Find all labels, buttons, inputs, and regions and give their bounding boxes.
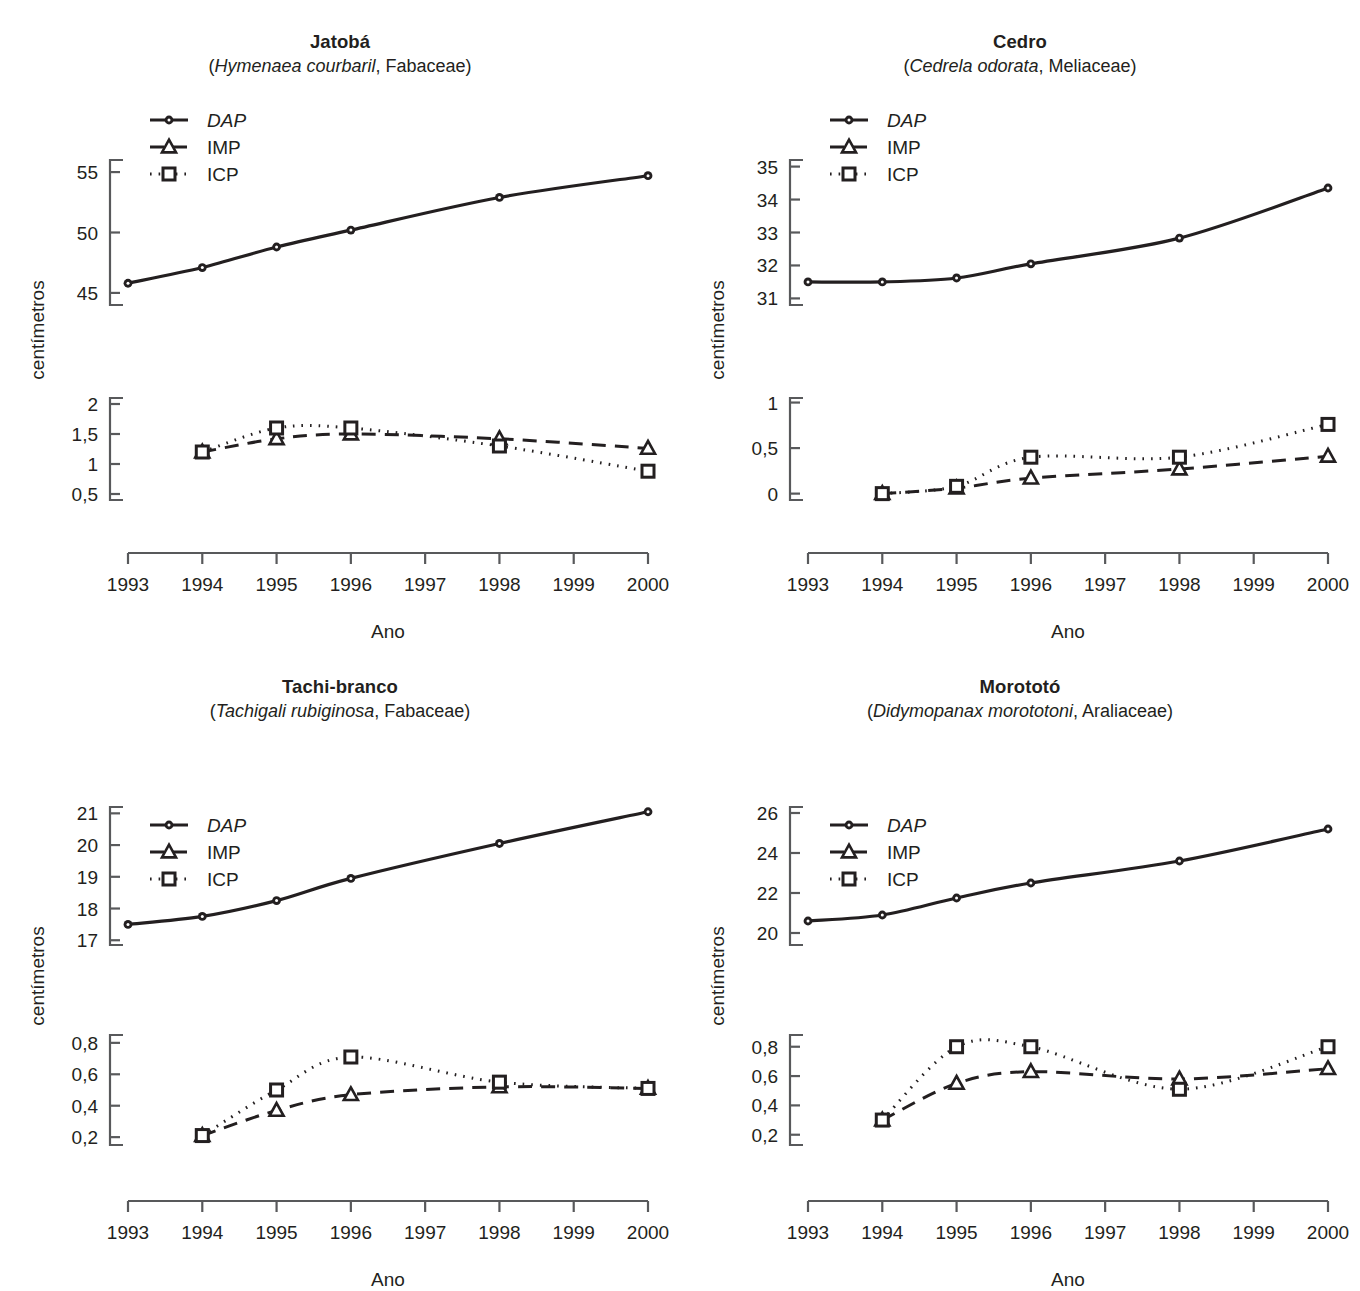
x-tick-label: 1997: [1084, 574, 1126, 595]
y-tick-label: 1: [87, 454, 98, 475]
y-tick-label: 50: [77, 223, 98, 244]
data-point-icp: [271, 1084, 283, 1096]
y-tick-label: 0,5: [72, 484, 98, 505]
y-tick-label: 31: [757, 288, 778, 309]
y-tick-label: 0,2: [72, 1127, 98, 1148]
data-point-dap-center: [275, 246, 278, 249]
series-line-dap: [808, 188, 1328, 282]
series-line-dap: [808, 829, 1328, 921]
x-tick-label: 1999: [1233, 574, 1275, 595]
series-line-dap: [128, 812, 648, 925]
data-point-dap-center: [848, 824, 851, 827]
x-tick-label: 1997: [1084, 1222, 1126, 1243]
x-tick-label: 2000: [627, 1222, 669, 1243]
plot-area: 313233343500,51: [752, 157, 1335, 505]
data-point-imp: [162, 845, 176, 858]
y-tick-label: 0,2: [752, 1125, 778, 1146]
legend-label-dap: DAP: [887, 815, 926, 836]
y-tick-label: 35: [757, 157, 778, 178]
panel-cedro: Cedro (Cedrela odorata, Meliaceae) 31323…: [680, 0, 1360, 645]
y-tick-label: 21: [77, 803, 98, 824]
legend-label-dap: DAP: [207, 815, 246, 836]
data-point-imp: [950, 1076, 964, 1089]
data-point-dap-center: [1327, 828, 1330, 831]
chart-jatoba: 4550550,511,52DAPIMPICP19931994199519961…: [0, 0, 680, 645]
y-tick-label: 0,4: [752, 1095, 779, 1116]
x-axis-label: Ano: [1051, 621, 1085, 642]
data-point-imp: [1321, 1061, 1335, 1074]
y-axis-label: centímetros: [27, 926, 48, 1025]
data-point-dap-center: [127, 282, 130, 285]
y-tick-label: 17: [77, 930, 98, 951]
y-axis-label: centímetros: [707, 926, 728, 1025]
data-point-imp: [842, 845, 856, 858]
data-point-icp: [493, 1076, 505, 1088]
x-tick-label: 1995: [935, 574, 977, 595]
x-tick-label: 1998: [1158, 1222, 1200, 1243]
data-point-icp: [843, 168, 855, 180]
data-point-icp: [1322, 418, 1334, 430]
y-tick-label: 55: [77, 162, 98, 183]
y-axis-spine: [790, 1035, 803, 1145]
data-point-icp: [196, 1130, 208, 1142]
plot-area: 17181920210,20,40,60,8: [72, 803, 655, 1148]
data-point-imp: [1024, 471, 1038, 484]
x-tick-label: 1995: [935, 1222, 977, 1243]
x-axis-label: Ano: [371, 621, 405, 642]
data-point-dap-center: [647, 810, 650, 813]
x-tick-label: 1998: [478, 574, 520, 595]
data-point-icp: [1025, 451, 1037, 463]
data-point-imp: [1024, 1064, 1038, 1077]
data-point-icp: [1322, 1041, 1334, 1053]
x-tick-label: 1998: [1158, 574, 1200, 595]
legend-label-dap: DAP: [207, 110, 246, 131]
data-point-dap-center: [1327, 187, 1330, 190]
data-point-dap-center: [807, 920, 810, 923]
data-point-imp: [162, 140, 176, 153]
y-tick-label: 0,5: [752, 438, 778, 459]
data-point-icp: [1173, 451, 1185, 463]
chart-cedro: 313233343500,51DAPIMPICP1993199419951996…: [680, 0, 1360, 645]
legend-label-imp: IMP: [207, 842, 241, 863]
x-tick-label: 1999: [553, 1222, 595, 1243]
y-tick-label: 22: [757, 883, 778, 904]
x-axis: 19931994199519961997199819992000Ano: [107, 553, 669, 642]
y-tick-label: 20: [77, 835, 98, 856]
x-axis: 19931994199519961997199819992000Ano: [787, 553, 1349, 642]
x-tick-label: 1995: [255, 574, 297, 595]
y-tick-label: 32: [757, 255, 778, 276]
legend: DAPIMPICP: [830, 815, 926, 890]
x-axis-label: Ano: [371, 1269, 405, 1290]
y-tick-label: 1,5: [72, 424, 98, 445]
x-tick-label: 1993: [107, 574, 149, 595]
legend: DAPIMPICP: [830, 110, 926, 185]
legend-label-icp: ICP: [887, 164, 919, 185]
data-point-imp: [641, 441, 655, 454]
data-point-icp: [843, 873, 855, 885]
data-point-dap-center: [201, 915, 204, 918]
y-axis-spine: [110, 1035, 123, 1145]
y-tick-label: 0: [767, 484, 778, 505]
data-point-icp: [642, 1082, 654, 1094]
x-tick-label: 1999: [1233, 1222, 1275, 1243]
data-point-dap-center: [349, 877, 352, 880]
y-tick-label: 45: [77, 283, 98, 304]
data-point-dap-center: [201, 266, 204, 269]
x-tick-label: 1995: [255, 1222, 297, 1243]
legend-label-imp: IMP: [887, 842, 921, 863]
data-point-imp: [270, 1103, 284, 1116]
y-axis-label: centímetros: [707, 280, 728, 379]
data-point-icp: [876, 488, 888, 500]
chart-tachi-branco: 17181920210,20,40,60,8DAPIMPICP199319941…: [0, 645, 680, 1291]
data-point-dap-center: [275, 899, 278, 902]
y-tick-label: 34: [757, 190, 779, 211]
data-point-dap-center: [168, 824, 171, 827]
data-point-icp: [271, 422, 283, 434]
x-tick-label: 2000: [627, 574, 669, 595]
x-tick-label: 1994: [861, 574, 904, 595]
data-point-imp: [842, 140, 856, 153]
x-tick-label: 1996: [1010, 1222, 1052, 1243]
x-tick-label: 1994: [181, 1222, 224, 1243]
y-tick-label: 24: [757, 843, 779, 864]
x-tick-label: 1996: [330, 1222, 372, 1243]
